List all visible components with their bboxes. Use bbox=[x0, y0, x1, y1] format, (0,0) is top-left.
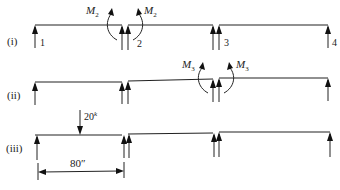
support-3-double bbox=[210, 78, 222, 102]
row-i: (i) 1 2 3 4 bbox=[7, 4, 337, 50]
point-load-20k: 20k bbox=[77, 110, 98, 135]
moment-left-m3: M3 bbox=[181, 58, 208, 93]
beam-span-2 bbox=[128, 133, 213, 134]
moment-left-m2: M2 bbox=[85, 4, 117, 40]
support-number-1: 1 bbox=[40, 37, 45, 48]
support-1 bbox=[34, 135, 40, 160]
support-3-double bbox=[211, 132, 222, 157]
beam-span-2 bbox=[128, 79, 213, 81]
row-ii: (ii) M3 bbox=[7, 58, 331, 105]
support-4 bbox=[325, 78, 331, 101]
support-3-double: 3 bbox=[210, 25, 229, 50]
row-label-i: (i) bbox=[7, 35, 18, 48]
dimension-label: 80″ bbox=[70, 157, 86, 169]
support-number-4: 4 bbox=[332, 37, 337, 48]
dimension-80in: 80″ bbox=[38, 157, 124, 180]
moment-label: M3 bbox=[235, 58, 249, 73]
support-2-double: 2 bbox=[119, 25, 142, 50]
row-iii: (iii) 20k bbox=[6, 110, 333, 180]
moment-label: M2 bbox=[143, 4, 157, 19]
moment-label: M2 bbox=[85, 4, 99, 19]
support-2-double bbox=[119, 81, 131, 104]
support-1 bbox=[32, 82, 38, 105]
moment-label: M3 bbox=[181, 58, 195, 73]
support-number-2: 2 bbox=[137, 38, 142, 49]
load-label: 20k bbox=[84, 110, 98, 122]
support-number-3: 3 bbox=[224, 37, 229, 48]
moment-right-m3: M3 bbox=[224, 58, 249, 93]
support-4: 4 bbox=[325, 25, 337, 48]
support-1: 1 bbox=[32, 25, 45, 48]
row-label-iii: (iii) bbox=[6, 142, 23, 155]
support-4 bbox=[327, 132, 333, 157]
row-label-ii: (ii) bbox=[7, 89, 21, 102]
continuous-beam-diagram: (i) 1 2 3 4 bbox=[0, 0, 340, 190]
support-2-double bbox=[121, 134, 132, 158]
moment-right-m2: M2 bbox=[133, 4, 157, 40]
